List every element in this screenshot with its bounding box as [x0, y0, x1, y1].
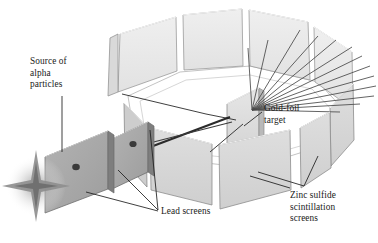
label-zinc-sulfide-screens: Zinc sulfide scintillation screens — [290, 190, 336, 225]
detector-panel[interactable] — [330, 84, 354, 166]
lead-screen-back[interactable] — [110, 122, 154, 190]
detector-panel-group-right — [330, 84, 354, 166]
label-lead-screens: Lead screens — [161, 206, 210, 218]
rutherford-experiment-figure: Source of alpha particles Gold-foil targ… — [0, 0, 378, 243]
detector-panel[interactable] — [108, 34, 118, 96]
detector-panel[interactable] — [183, 9, 243, 70]
lead-screen-hole — [129, 141, 136, 147]
lead-screen-hole — [72, 164, 80, 170]
label-gold-foil-target: Gold-foil target — [264, 103, 300, 126]
label-source-of-alpha-particles: Source of alpha particles — [30, 56, 67, 91]
